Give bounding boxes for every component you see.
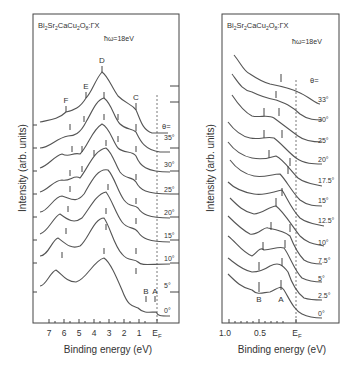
left-yticks [33, 125, 37, 292]
right-panel: Bi2Sr2CaCu2O8:ΓX ħω=18eV Intensity (arb.… [205, 14, 339, 355]
right-theta-label: θ= [310, 76, 319, 85]
figure: Bi2Sr2CaCu2O8:ΓX ħω=18eV Intensity (arb.… [0, 0, 353, 371]
right-xticks [229, 319, 296, 323]
svg-text:0°: 0° [318, 310, 325, 317]
svg-text:15°: 15° [318, 197, 329, 204]
left-peak-labels: F E D C B A [64, 56, 159, 296]
svg-text:5°: 5° [318, 275, 325, 282]
svg-text:0.5: 0.5 [254, 328, 266, 338]
left-spectra [40, 72, 170, 316]
svg-text:B: B [143, 287, 148, 296]
svg-text:33°: 33° [318, 96, 329, 103]
right-peak-labels: B A [256, 295, 284, 304]
svg-text:25°: 25° [164, 186, 175, 193]
svg-text:20°: 20° [318, 156, 329, 163]
svg-text:0°: 0° [164, 307, 171, 314]
svg-text:10°: 10° [164, 255, 175, 262]
svg-text:A: A [152, 287, 158, 296]
svg-text:17.5°: 17.5° [318, 177, 335, 184]
svg-text:10°: 10° [318, 239, 329, 246]
svg-text:EF: EF [292, 328, 302, 339]
left-panel: Bi2Sr2CaCu2O8:ΓX ħω=18eV Intensity (arb.… [17, 14, 179, 355]
svg-text:F: F [64, 96, 69, 105]
svg-text:35°: 35° [164, 134, 175, 141]
svg-text:1.0: 1.0 [219, 328, 231, 338]
svg-text:20°: 20° [164, 209, 175, 216]
svg-text:3: 3 [107, 328, 112, 338]
svg-text:30°: 30° [164, 161, 175, 168]
left-theta-label: θ= [162, 122, 171, 131]
svg-text:25°: 25° [318, 137, 329, 144]
svg-text:7: 7 [47, 328, 52, 338]
svg-text:A: A [278, 295, 284, 304]
svg-text:7.5°: 7.5° [318, 257, 331, 264]
svg-text:E: E [83, 82, 88, 91]
right-xlabel: Binding energy (eV) [238, 344, 326, 355]
svg-text:12.5°: 12.5° [318, 217, 335, 224]
right-subtitle: ħω=18eV [292, 38, 322, 45]
svg-text:30°: 30° [318, 116, 329, 123]
left-subtitle: ħω=18eV [104, 35, 134, 42]
svg-text:5°: 5° [164, 282, 171, 289]
left-xtick-labels: 7 6 5 4 3 2 1 EF [47, 328, 162, 339]
right-ylabel: Intensity (arb. units) [205, 124, 216, 212]
svg-text:B: B [256, 295, 261, 304]
right-peak-marks [259, 74, 290, 292]
left-ylabel: Intensity (arb. units) [17, 124, 28, 212]
svg-text:D: D [99, 56, 105, 65]
svg-text:4: 4 [92, 328, 97, 338]
left-xlabel: Binding energy (eV) [64, 344, 152, 355]
right-title: Bi2Sr2CaCu2O8:ΓX [227, 21, 289, 31]
svg-text:2: 2 [122, 328, 127, 338]
svg-text:6: 6 [62, 328, 67, 338]
svg-text:15°: 15° [164, 232, 175, 239]
left-peak-marks [62, 66, 155, 302]
svg-text:5: 5 [77, 328, 82, 338]
right-xtick-labels: 1.0 0.5 EF [219, 328, 302, 339]
left-xticks [49, 319, 157, 323]
svg-text:2.5°: 2.5° [318, 292, 331, 299]
svg-text:C: C [133, 93, 139, 102]
svg-text:EF: EF [152, 328, 162, 339]
left-angle-labels: 35° 30° 25° 20° 15° 10° 5° 0° [164, 134, 175, 314]
svg-text:1: 1 [137, 328, 142, 338]
left-title: Bi2Sr2CaCu2O8:ΓX [38, 21, 100, 31]
